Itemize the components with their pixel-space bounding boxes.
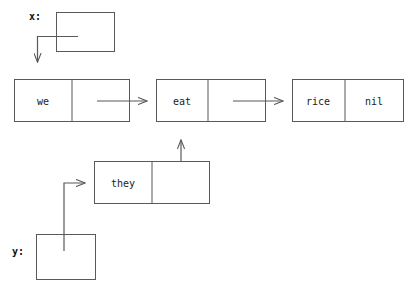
cons-cell-rice-cdr: nil <box>365 96 383 107</box>
variable-label-y: y: <box>12 246 24 257</box>
cons-cell-rice: rice nil <box>293 80 404 122</box>
cons-cell-we-car: we <box>37 96 49 107</box>
cons-cell-they: they <box>95 162 210 204</box>
linked-list-diagram: x: we eat <box>0 0 416 293</box>
variable-box-x <box>57 13 115 52</box>
diagram-canvas: x: we eat <box>0 0 416 293</box>
variable-label-x: x: <box>29 11 41 22</box>
cons-cell-they-car: they <box>111 178 135 189</box>
variable-box-y <box>37 235 96 280</box>
cons-cell-rice-car: rice <box>306 96 330 107</box>
cons-cell-eat-car: eat <box>173 96 191 107</box>
